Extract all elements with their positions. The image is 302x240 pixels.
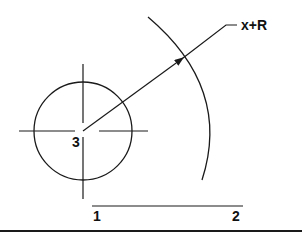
center-label: 3 [72,134,80,150]
point-1-label: 1 [93,208,101,224]
center-crosshair [19,64,148,199]
large-arc [148,17,210,180]
leader-label: x+R [241,17,267,33]
radius-arrow [83,58,183,131]
point-2-label: 2 [232,208,240,224]
leader-line [183,25,237,58]
diagram-canvas: x+R 3 1 2 [0,0,302,240]
